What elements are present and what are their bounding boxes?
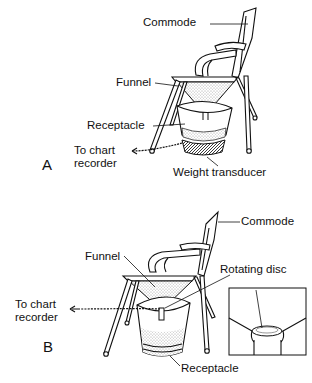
label-rotating-disc: Rotating disc [220,263,286,276]
label-receptacle-b: Receptacle [181,362,239,375]
label-commode-a: Commode [143,16,196,29]
label-to-chart-b-line2: recorder [15,311,58,324]
commode-diagram-figure [0,0,312,383]
panel-letter-a: A [42,156,52,173]
panel-letter-b: B [43,338,53,355]
label-funnel-a: Funnel [116,76,151,89]
label-to-chart-b-line1: To chart [15,298,56,311]
panel-b-drawing [70,212,240,366]
label-to-chart-a-line1: To chart [74,144,115,157]
label-funnel-b: Funnel [85,250,120,263]
label-to-chart-a-line2: recorder [74,157,117,170]
label-receptacle-a: Receptacle [87,119,145,132]
label-weight-transducer: Weight transducer [173,166,266,179]
label-commode-b: Commode [241,215,294,228]
rotating-disc-inset [229,288,306,355]
